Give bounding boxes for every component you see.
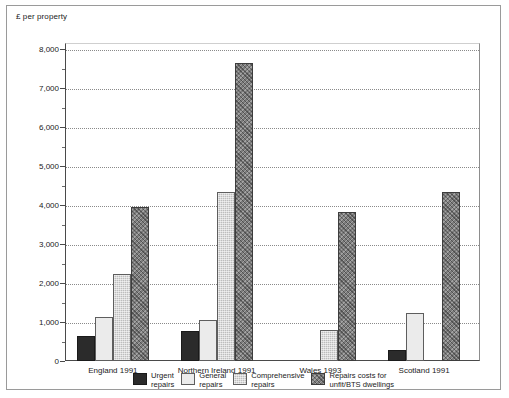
y-axis-labels: 01,0002,0003,0004,0005,0006,0007,0008,00… — [17, 6, 59, 398]
bar — [442, 192, 460, 361]
y-axis-tick-major — [60, 322, 65, 323]
y-axis-tick-major — [60, 244, 65, 245]
y-axis-tick-minor — [62, 264, 65, 265]
legend-item: Repairs costs for unfit/BTS dwellings — [311, 372, 394, 389]
legend-label: Repairs costs for unfit/BTS dwellings — [329, 372, 394, 389]
bar — [131, 207, 149, 361]
y-axis-tick-major — [60, 361, 65, 362]
y-axis-tick-major — [60, 88, 65, 89]
legend-item: Urgent repairs — [133, 372, 174, 389]
legend-swatch — [311, 373, 325, 385]
y-axis-tick-label: 4,000 — [39, 201, 59, 210]
y-axis-tick-minor — [62, 225, 65, 226]
y-axis-tick-label: 1,000 — [39, 318, 59, 327]
y-axis-tick-minor — [62, 186, 65, 187]
bar — [388, 350, 406, 361]
y-axis-tick-label: 8,000 — [39, 45, 59, 54]
y-axis-tick-label: 2,000 — [39, 279, 59, 288]
y-axis-tick-major — [60, 49, 65, 50]
y-axis-tick-minor — [62, 342, 65, 343]
bar — [95, 317, 113, 361]
legend-label: Comprehensive repairs — [251, 372, 304, 389]
x-axis-category-label: England 1991 — [88, 366, 137, 375]
bar — [406, 313, 424, 361]
bar — [181, 331, 199, 361]
y-axis-tick-minor — [62, 108, 65, 109]
bar — [338, 212, 356, 361]
bar — [235, 63, 253, 361]
legend-label: General repairs — [199, 372, 226, 389]
y-axis-tick-label: 7,000 — [39, 84, 59, 93]
bar — [199, 320, 217, 361]
legend-label: Urgent repairs — [151, 372, 174, 389]
y-axis-tick-label: 0 — [55, 357, 59, 366]
chart-legend: Urgent repairsGeneral repairsComprehensi… — [133, 372, 394, 389]
legend-item: Comprehensive repairs — [233, 372, 304, 389]
legend-swatch — [233, 373, 247, 385]
y-axis-tick-label: 5,000 — [39, 162, 59, 171]
y-axis-tick-label: 3,000 — [39, 240, 59, 249]
legend-swatch — [133, 373, 147, 385]
y-axis-tick-minor — [62, 303, 65, 304]
y-axis-tick-minor — [62, 69, 65, 70]
x-axis-category-label: Scotland 1991 — [399, 366, 450, 375]
y-axis-tick-major — [60, 283, 65, 284]
y-axis-tick-major — [60, 205, 65, 206]
legend-item: General repairs — [181, 372, 226, 389]
bar — [113, 274, 131, 361]
bar — [320, 330, 338, 361]
y-axis-tick-major — [60, 127, 65, 128]
bar — [77, 336, 95, 361]
legend-swatch — [181, 373, 195, 385]
bar — [217, 192, 235, 361]
y-axis-tick-minor — [62, 147, 65, 148]
chart-figure: £ per property 01,0002,0003,0004,0005,00… — [6, 5, 501, 390]
y-axis-tick-major — [60, 166, 65, 167]
y-axis-tick-label: 6,000 — [39, 123, 59, 132]
